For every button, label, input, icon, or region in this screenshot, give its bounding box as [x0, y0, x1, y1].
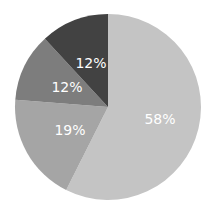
slice-label-12a: 12% — [51, 79, 82, 95]
pie-chart: 58% 19% 12% 12% — [0, 0, 209, 213]
pie-slices — [15, 14, 201, 200]
slice-label-12b: 12% — [75, 55, 106, 71]
slice-label-58: 58% — [144, 111, 175, 127]
slice-label-19: 19% — [54, 122, 85, 138]
